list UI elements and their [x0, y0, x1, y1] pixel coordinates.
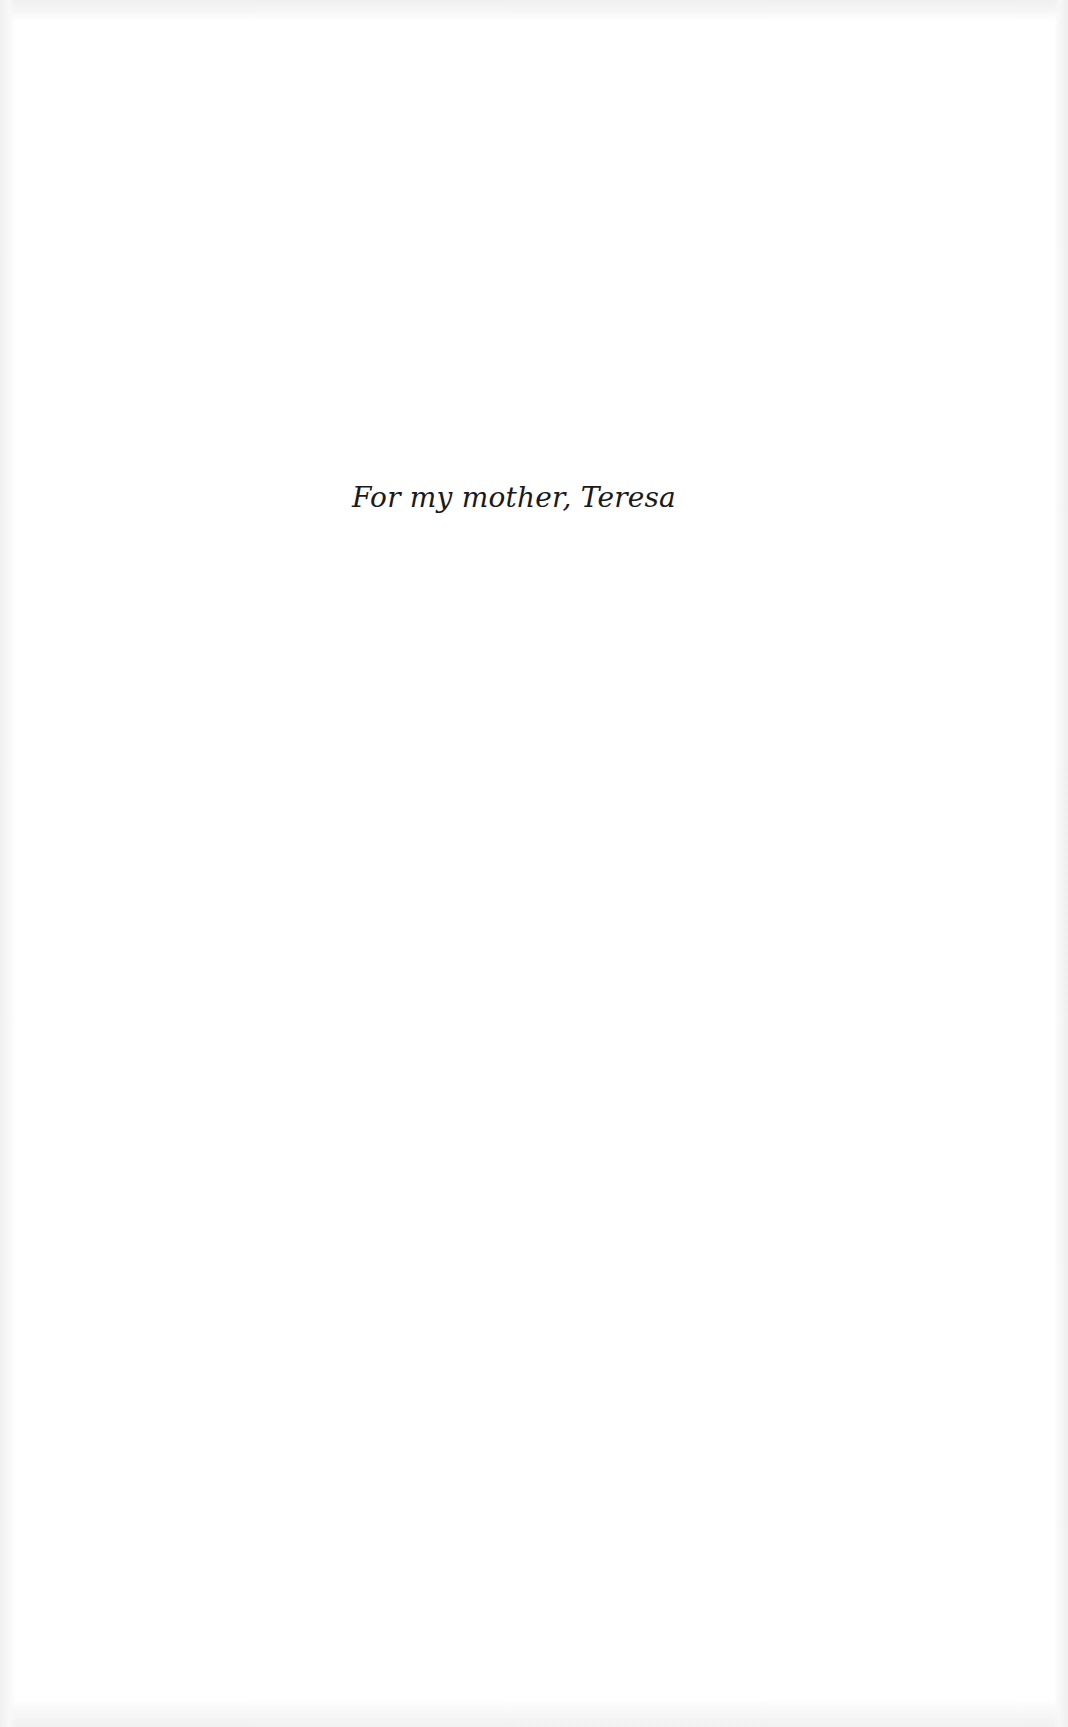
page-edge-right	[1054, 0, 1068, 1727]
dedication-text: For my mother, Teresa	[0, 478, 1028, 518]
book-page: For my mother, Teresa	[0, 0, 1068, 1727]
page-edge-left	[0, 0, 16, 1727]
page-edge-top	[0, 0, 1068, 22]
page-edge-bottom	[0, 1699, 1068, 1727]
